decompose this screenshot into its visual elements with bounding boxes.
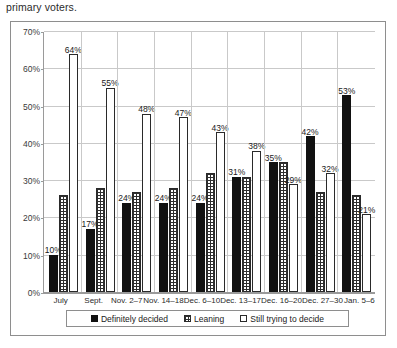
- bar-value-label: 64%: [65, 46, 82, 55]
- caption-text: primary voters.: [6, 1, 77, 13]
- bar-value-label: 35%: [265, 154, 282, 163]
- bar-undecided: 55%: [106, 88, 115, 292]
- bar-decided: 31%: [232, 177, 241, 292]
- x-axis-category-label: Dec. 6–10: [184, 296, 220, 305]
- bar-decided: 24%: [196, 203, 205, 292]
- bar-undecided: 32%: [326, 173, 335, 292]
- plot-wrapper: 0%10%20%30%40%50%60%70% 10%26%64%17%28%5…: [43, 32, 375, 294]
- y-axis-tick-mark: [41, 181, 44, 182]
- bar-value-label: 32%: [322, 165, 339, 174]
- bar-leaning: 32%: [206, 173, 215, 292]
- bar-value-label: 48%: [138, 105, 155, 114]
- bar-decided: 10%: [49, 255, 58, 292]
- y-axis-tick-label: 0%: [28, 288, 40, 298]
- y-axis-tick-label: 60%: [23, 64, 40, 74]
- bar-value-label: 55%: [101, 79, 118, 88]
- plot-area: 0%10%20%30%40%50%60%70% 10%26%64%17%28%5…: [43, 32, 375, 294]
- bar-group: 24%28%47%: [155, 32, 192, 292]
- legend-item-label: Still trying to decide: [250, 314, 324, 324]
- bar-decided: 17%: [86, 229, 95, 292]
- bar-group: 17%28%55%: [82, 32, 119, 292]
- bar-decided: 24%: [122, 203, 131, 292]
- y-axis-tick-mark: [41, 144, 44, 145]
- bar-undecided: 29%: [289, 184, 298, 292]
- x-axis-category-label: Dec. 16–20: [261, 296, 302, 305]
- bar-undecided: 64%: [69, 54, 78, 292]
- bar-decided: 42%: [306, 136, 315, 292]
- bar-leaning: 26%: [59, 195, 68, 292]
- y-axis-tick-label: 50%: [23, 102, 40, 112]
- bar-value-label: 43%: [212, 124, 229, 133]
- x-axis-category-label: July: [44, 296, 77, 305]
- y-axis-tick-label: 40%: [23, 139, 40, 149]
- bar-leaning: 28%: [96, 188, 105, 292]
- bar-group: 10%26%64%: [45, 32, 82, 292]
- bar-value-label: 31%: [228, 168, 245, 177]
- chart-page: primary voters. 0%10%20%30%40%50%60%70% …: [0, 0, 397, 348]
- bar-group: 42%27%32%: [302, 32, 339, 292]
- bar-undecided: 21%: [362, 214, 371, 292]
- x-axis-category-label: Jan. 5–6: [343, 296, 376, 305]
- bar-undecided: 38%: [252, 151, 261, 292]
- bar-value-label: 38%: [248, 142, 265, 151]
- x-axis-category-label: Dec. 13–17: [220, 296, 261, 305]
- legend-item-label: Definitely decided: [101, 314, 168, 324]
- bar-undecided: 43%: [216, 132, 225, 292]
- bar-leaning: 27%: [132, 192, 141, 292]
- bar-group: 53%26%21%: [338, 32, 375, 292]
- chart-legend: Definitely decidedLeaningStill trying to…: [66, 310, 349, 327]
- bar-value-label: 42%: [302, 128, 319, 137]
- bar-value-label: 29%: [285, 176, 302, 185]
- chart-figure-frame: 0%10%20%30%40%50%60%70% 10%26%64%17%28%5…: [10, 21, 386, 336]
- x-axis-category-label: Nov. 14–18: [143, 296, 183, 305]
- bar-value-label: 21%: [358, 206, 375, 215]
- x-axis-labels: JulySept.Nov. 2–7Nov. 14–18Dec. 6–10Dec.…: [44, 296, 376, 305]
- bar-value-label: 47%: [175, 109, 192, 118]
- bar-group: 24%27%48%: [118, 32, 155, 292]
- y-axis-tick-label: 20%: [23, 213, 40, 223]
- empty-white-swatch: [240, 315, 247, 322]
- bar-group: 35%35%29%: [265, 32, 302, 292]
- bar-group: 24%32%43%: [192, 32, 229, 292]
- bar-leaning: 28%: [169, 188, 178, 292]
- legend-item[interactable]: Still trying to decide: [240, 314, 324, 324]
- x-axis-category-label: Sept.: [77, 296, 110, 305]
- y-axis-tick-label: 70%: [23, 27, 40, 37]
- legend-item[interactable]: Leaning: [184, 314, 224, 324]
- y-axis-tick-mark: [41, 218, 44, 219]
- bar-leaning: 31%: [242, 177, 251, 292]
- bar-decided: 53%: [342, 95, 351, 292]
- y-axis-tick-mark: [41, 32, 44, 33]
- solid-black-swatch: [91, 315, 98, 322]
- x-axis-category-label: Nov. 2–7: [110, 296, 143, 305]
- bar-undecided: 48%: [142, 114, 151, 292]
- x-axis-category-label: Dec. 27–30: [302, 296, 343, 305]
- y-axis-tick-mark: [41, 256, 44, 257]
- bar-groups: 10%26%64%17%28%55%24%27%48%24%28%47%24%3…: [45, 32, 375, 292]
- legend-item-label: Leaning: [194, 314, 224, 324]
- bar-leaning: 27%: [316, 192, 325, 292]
- y-axis-tick-mark: [41, 107, 44, 108]
- bar-decided: 24%: [159, 203, 168, 292]
- bar-decided: 35%: [269, 162, 278, 292]
- gridline: 0%: [44, 292, 375, 293]
- legend-item[interactable]: Definitely decided: [91, 314, 168, 324]
- y-axis-tick-mark: [41, 293, 44, 294]
- bar-undecided: 47%: [179, 117, 188, 292]
- y-axis-tick-label: 10%: [23, 251, 40, 261]
- y-axis-tick-mark: [41, 69, 44, 70]
- crosshatch-swatch: [184, 315, 191, 322]
- bar-value-label: 53%: [338, 87, 355, 96]
- bar-group: 31%31%38%: [228, 32, 265, 292]
- y-axis-tick-label: 30%: [23, 176, 40, 186]
